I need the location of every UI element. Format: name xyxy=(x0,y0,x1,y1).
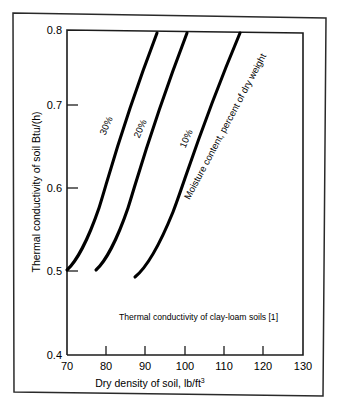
curve-30-percent xyxy=(67,33,157,270)
curve-label-10: 10% xyxy=(177,127,195,149)
x-axis-title-superscript: 3 xyxy=(201,377,205,384)
ytick-label-4: 0.4 xyxy=(47,349,62,361)
xtick-label-110: 110 xyxy=(215,360,233,372)
xtick-label-120: 120 xyxy=(254,360,272,372)
y-axis-title: Thermal conductivity of soil Btu/(h) xyxy=(30,111,42,272)
chart-svg: 0.8 0.7 0.6 0.5 0.4 70 80 90 100 110 120… xyxy=(0,0,341,413)
ytick-label-1: 0.7 xyxy=(47,99,62,111)
xtick-label-70: 70 xyxy=(61,360,73,372)
curve-label-20: 20% xyxy=(131,117,149,139)
x-axis-title: Dry density of soil, lb/ft3 xyxy=(95,377,205,389)
figure-container: 0.8 0.7 0.6 0.5 0.4 70 80 90 100 110 120… xyxy=(0,0,341,413)
xtick-label-100: 100 xyxy=(176,360,194,372)
page-border xyxy=(13,13,326,396)
ytick-label-2: 0.6 xyxy=(47,182,62,194)
curve-10-percent xyxy=(135,33,240,277)
curve-20-percent xyxy=(96,33,187,270)
chart-caption: Thermal conductivity of clay-loam soils … xyxy=(119,312,278,322)
ytick-label-0: 0.8 xyxy=(47,24,62,36)
ytick-label-3: 0.5 xyxy=(47,265,62,277)
x-axis-title-text: Dry density of soil, lb/ft xyxy=(95,377,201,389)
xtick-label-80: 80 xyxy=(100,360,112,372)
xtick-label-90: 90 xyxy=(139,360,151,372)
curve-label-30: 30% xyxy=(97,114,115,136)
xtick-label-130: 130 xyxy=(294,360,312,372)
